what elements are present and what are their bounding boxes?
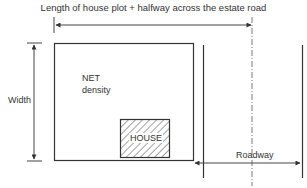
width-label: Width (8, 95, 31, 105)
diagram-title: Length of house plot + halfway across th… (0, 2, 307, 13)
length-dimension (54, 17, 251, 33)
net-density-label: NET density (82, 72, 111, 96)
roadway-label: Roadway (236, 150, 274, 160)
net-label-line1: NET (82, 72, 111, 84)
house-label: HOUSE (129, 133, 163, 143)
net-label-line2: density (82, 84, 111, 96)
